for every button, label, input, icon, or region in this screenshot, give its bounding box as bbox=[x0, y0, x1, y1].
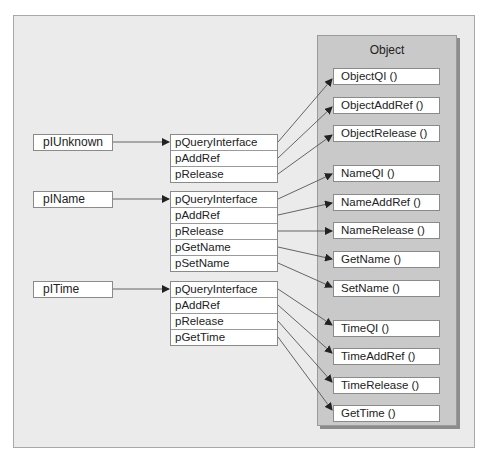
connector-arrows bbox=[0, 0, 489, 470]
